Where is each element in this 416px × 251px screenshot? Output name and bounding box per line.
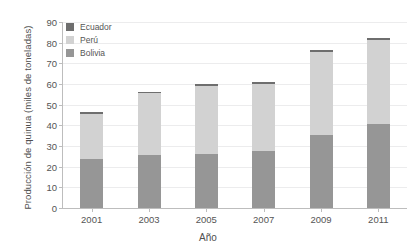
chart-legend: EcuadorPerúBolivia <box>66 21 112 60</box>
y-tick-label: 90 <box>46 17 57 28</box>
x-tick-mark <box>321 208 322 212</box>
y-tick-mark <box>59 187 63 188</box>
y-tick-mark <box>59 84 63 85</box>
gridline <box>63 187 407 188</box>
legend-swatch-icon <box>66 23 74 31</box>
x-tick-label: 2011 <box>368 214 388 225</box>
bar-segment-bolivia <box>310 135 333 208</box>
x-axis-title: Año <box>0 232 416 243</box>
bar-segment-per <box>138 93 161 155</box>
x-tick-label: 2007 <box>253 214 274 225</box>
bar-segment-per <box>80 114 103 159</box>
x-tick-mark <box>264 208 265 212</box>
y-tick-label: 70 <box>46 58 57 69</box>
y-tick-label: 30 <box>46 141 57 152</box>
y-tick-mark <box>59 167 63 168</box>
bar-segment-ecuador <box>80 112 103 114</box>
x-tick-label: 2003 <box>138 214 159 225</box>
x-tick-label: 2005 <box>196 214 217 225</box>
legend-swatch-icon <box>66 49 74 57</box>
bar-segment-ecuador <box>195 84 218 86</box>
x-tick-mark <box>149 208 150 212</box>
bar-segment-bolivia <box>195 154 218 208</box>
bar-segment-per <box>252 84 275 151</box>
y-tick-label: 20 <box>46 161 57 172</box>
bar-stack <box>195 22 218 208</box>
gridline <box>63 125 407 126</box>
y-tick-label: 10 <box>46 182 57 193</box>
y-axis-title: Producción de quinua (miles de toneladas… <box>22 18 33 218</box>
bar-stack <box>310 22 333 208</box>
y-axis-line <box>62 22 63 208</box>
bar-segment-ecuador <box>138 92 161 94</box>
gridline <box>63 105 407 106</box>
bar-segment-ecuador <box>367 38 390 40</box>
bar-segment-per <box>367 40 390 125</box>
legend-item: Bolivia <box>66 47 112 58</box>
y-tick-mark <box>59 125 63 126</box>
y-tick-label: 80 <box>46 37 57 48</box>
legend-item: Perú <box>66 34 112 45</box>
gridline <box>63 167 407 168</box>
bar-segment-ecuador <box>310 50 333 52</box>
y-tick-mark <box>59 105 63 106</box>
y-tick-mark <box>59 63 63 64</box>
x-tick-label: 2009 <box>310 214 331 225</box>
y-tick-mark <box>59 43 63 44</box>
gridlines <box>63 22 407 208</box>
x-axis-line <box>62 208 407 209</box>
stacked-bar-chart: Producción de quinua (miles de toneladas… <box>0 0 416 251</box>
bar-stack <box>367 22 390 208</box>
y-tick-mark <box>59 208 63 209</box>
y-tick-mark <box>59 22 63 23</box>
y-tick-label: 60 <box>46 79 57 90</box>
bar-stack <box>252 22 275 208</box>
bar-segment-bolivia <box>367 124 390 208</box>
legend-label: Bolivia <box>80 48 105 58</box>
legend-item: Ecuador <box>66 21 112 32</box>
x-tick-mark <box>92 208 93 212</box>
plot-area: 0102030405060708090 20012003200520072009… <box>63 22 407 208</box>
gridline <box>63 146 407 147</box>
x-tick-mark <box>378 208 379 212</box>
bar-segment-bolivia <box>80 159 103 208</box>
legend-label: Ecuador <box>80 22 112 32</box>
y-tick-label: 0 <box>52 203 57 214</box>
y-tick-label: 50 <box>46 99 57 110</box>
legend-swatch-icon <box>66 36 74 44</box>
y-tick-label: 40 <box>46 120 57 131</box>
x-tick-mark <box>206 208 207 212</box>
bar-stack <box>138 22 161 208</box>
gridline <box>63 22 407 23</box>
y-tick-mark <box>59 146 63 147</box>
bar-segment-ecuador <box>252 82 275 84</box>
gridline <box>63 43 407 44</box>
bar-segment-bolivia <box>252 151 275 208</box>
bar-segment-bolivia <box>138 155 161 208</box>
x-tick-label: 2001 <box>81 214 102 225</box>
bar-segment-per <box>195 86 218 154</box>
gridline <box>63 63 407 64</box>
legend-label: Perú <box>80 35 98 45</box>
gridline <box>63 84 407 85</box>
bar-segment-per <box>310 52 333 135</box>
